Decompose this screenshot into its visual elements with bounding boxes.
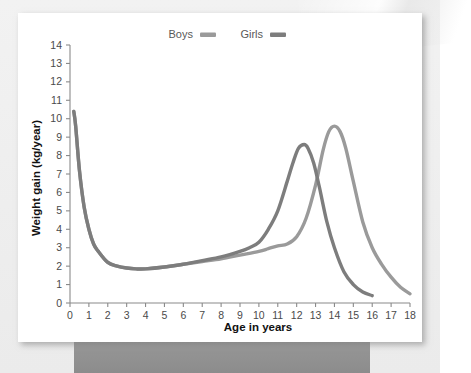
chart-legend: Boys Girls (169, 28, 286, 40)
x-tick-label: 1 (86, 309, 92, 321)
girls-swatch (270, 33, 286, 38)
y-tick-label: 7 (56, 168, 62, 180)
plot-area-wrapper: Boys Girls 01234567891011121314 01234567… (18, 13, 422, 342)
y-tick-label: 2 (56, 260, 62, 272)
x-tick-label: 11 (272, 309, 283, 321)
y-axis-title: Weight gain (kg/year) (30, 120, 42, 236)
boys-swatch (200, 33, 216, 38)
x-tick-label: 3 (124, 309, 130, 321)
x-tick-label: 18 (404, 309, 416, 321)
y-tick-label: 8 (56, 149, 62, 161)
x-tick-label: 15 (347, 309, 359, 321)
x-tick-label: 7 (199, 309, 205, 321)
y-tick-label: 10 (50, 112, 62, 124)
y-tick-label: 6 (56, 186, 62, 198)
x-axis-title: Age in years (224, 321, 292, 333)
pedestal-bar (74, 340, 370, 373)
y-tick-label: 3 (56, 241, 62, 253)
x-axis-ticks: 0123456789101112131415161718 (67, 303, 416, 321)
x-tick-label: 5 (162, 309, 168, 321)
series-group (74, 111, 410, 295)
x-tick-label: 17 (385, 309, 397, 321)
x-tick-label: 16 (366, 309, 378, 321)
weight-gain-line-chart: Boys Girls 01234567891011121314 01234567… (18, 13, 422, 342)
y-tick-label: 9 (56, 131, 62, 143)
x-tick-label: 4 (143, 309, 149, 321)
x-tick-label: 10 (253, 309, 265, 321)
y-tick-label: 12 (50, 75, 62, 87)
y-tick-label: 13 (50, 57, 62, 69)
y-tick-label: 1 (56, 278, 62, 290)
y-tick-label: 4 (56, 223, 62, 235)
y-axis-ticks: 01234567891011121314 (50, 39, 70, 309)
y-tick-label: 14 (50, 39, 62, 51)
legend-label-girls: Girls (240, 28, 263, 40)
x-tick-label: 13 (310, 309, 322, 321)
y-tick-label: 5 (56, 204, 62, 216)
y-tick-label: 11 (51, 94, 62, 106)
legend-label-boys: Boys (169, 28, 194, 40)
x-tick-label: 14 (329, 309, 341, 321)
x-tick-label: 6 (180, 309, 186, 321)
x-tick-label: 9 (237, 309, 243, 321)
x-tick-label: 2 (105, 309, 111, 321)
chart-card: Boys Girls 01234567891011121314 01234567… (18, 13, 422, 342)
y-tick-label: 0 (56, 297, 62, 309)
x-tick-label: 0 (67, 309, 73, 321)
x-tick-label: 8 (218, 309, 224, 321)
x-tick-label: 12 (291, 309, 303, 321)
